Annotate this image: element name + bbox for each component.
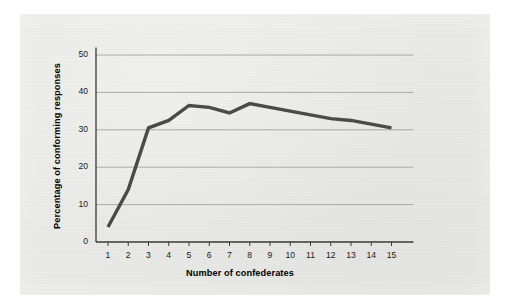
- x-tick-label: 5: [178, 250, 200, 260]
- y-tick-label: 10: [62, 199, 88, 209]
- x-tick-label: 12: [320, 250, 342, 260]
- x-tick-label: 13: [340, 250, 362, 260]
- gridlines-group: [96, 55, 414, 205]
- y-tick-label: 20: [62, 161, 88, 171]
- y-tick-label: 40: [62, 86, 88, 96]
- x-tick-label: 1: [97, 250, 119, 260]
- x-tick-label: 7: [219, 250, 241, 260]
- x-tick-label: 9: [259, 250, 281, 260]
- x-tick-label: 11: [300, 250, 322, 260]
- y-tick-label: 30: [62, 124, 88, 134]
- x-tick-label: 10: [279, 250, 301, 260]
- x-tick-label: 4: [158, 250, 180, 260]
- x-tick-label: 15: [381, 250, 403, 260]
- y-tick-label: 0: [62, 236, 88, 246]
- x-axis-title: Number of confederates: [0, 268, 480, 278]
- x-tick-label: 6: [198, 250, 220, 260]
- data-line-series: [108, 104, 392, 227]
- plot-area: [0, 0, 505, 308]
- x-tick-label: 14: [360, 250, 382, 260]
- x-tick-label: 2: [117, 250, 139, 260]
- y-tick-label: 50: [62, 49, 88, 59]
- figure-container: 01020304050 123456789101112131415 Percen…: [0, 0, 505, 308]
- data-series-group: [108, 104, 392, 227]
- x-tick-label: 8: [239, 250, 261, 260]
- x-tick-label: 3: [138, 250, 160, 260]
- y-axis-title: Percentage of conforming responses: [52, 50, 62, 242]
